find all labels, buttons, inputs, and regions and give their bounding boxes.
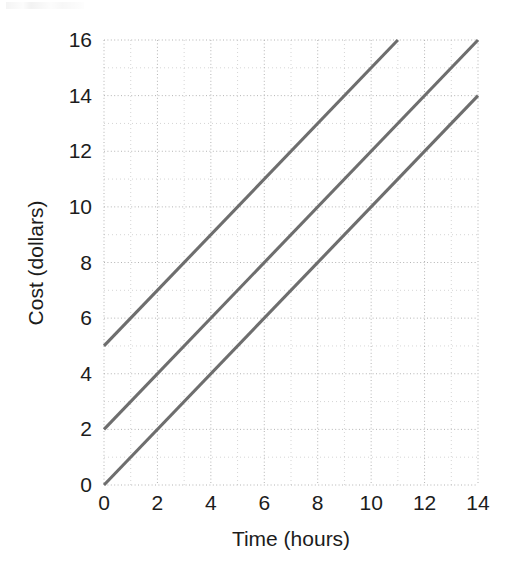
y-tick-label: 8	[80, 251, 92, 274]
y-tick-label: 12	[69, 139, 92, 162]
line-chart-canvas: 0246810121416 02468101214 Time (hours) C…	[0, 0, 518, 571]
y-tick-label: 0	[80, 473, 92, 496]
x-tick-label: 14	[466, 491, 490, 514]
y-tick-label: 6	[80, 306, 92, 329]
chart-figure: 0246810121416 02468101214 Time (hours) C…	[0, 0, 518, 571]
y-tick-label: 14	[69, 84, 93, 107]
x-tick-label: 8	[312, 491, 324, 514]
x-tick-label: 12	[413, 491, 436, 514]
y-axis-title: Cost (dollars)	[24, 201, 47, 326]
data-line-line-upper	[104, 40, 398, 346]
x-axis-title: Time (hours)	[232, 527, 350, 550]
x-tick-label: 4	[205, 491, 217, 514]
y-tick-label: 10	[69, 195, 92, 218]
grid-major-lines	[104, 40, 478, 485]
y-axis-tick-labels: 0246810121416	[69, 28, 93, 496]
y-tick-label: 16	[69, 28, 92, 51]
y-tick-label: 4	[80, 362, 92, 385]
x-tick-label: 0	[98, 491, 110, 514]
x-tick-label: 6	[258, 491, 270, 514]
y-tick-label: 2	[80, 417, 92, 440]
x-tick-label: 10	[359, 491, 382, 514]
x-tick-label: 2	[152, 491, 164, 514]
x-axis-tick-labels: 02468101214	[98, 491, 490, 514]
